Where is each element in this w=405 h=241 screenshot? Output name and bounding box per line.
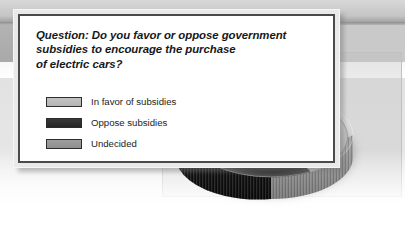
- infographic-canvas: 13% 29% 58% Question: Do you favor or op…: [0, 0, 405, 241]
- legend-item-undecided: Undecided: [46, 134, 176, 153]
- card-body: Question: Do you favor or oppose governm…: [20, 16, 333, 161]
- legend-swatch-oppose: [46, 118, 82, 128]
- question-text: Question: Do you favor or oppose governm…: [36, 28, 319, 71]
- question-card: Question: Do you favor or oppose governm…: [13, 9, 340, 168]
- legend-item-in-favor: In favor of subsidies: [46, 92, 176, 111]
- legend-label-in-favor: In favor of subsidies: [91, 96, 176, 107]
- chart-legend: In favor of subsidies Oppose subsidies U…: [46, 92, 176, 155]
- legend-swatch-in-favor: [46, 97, 82, 107]
- legend-item-oppose: Oppose subsidies: [46, 113, 176, 132]
- legend-swatch-undecided: [46, 139, 82, 149]
- legend-label-undecided: Undecided: [91, 138, 137, 149]
- card-inner-border: Question: Do you favor or oppose governm…: [18, 14, 335, 163]
- legend-label-oppose: Oppose subsidies: [91, 117, 167, 128]
